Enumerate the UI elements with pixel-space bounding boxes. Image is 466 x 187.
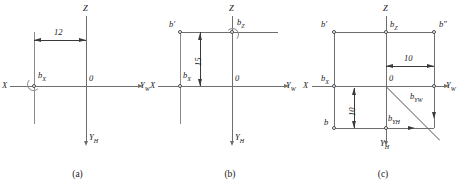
point-label-byh-c-sub: YH (392, 119, 400, 125)
axis-label-z-c: Z (383, 4, 388, 13)
point-bz-c (384, 30, 388, 34)
point-label-bz-b: bZ (237, 18, 245, 29)
axis-label-yw-a-sub: W (145, 86, 150, 92)
panel-c: 10 10 Z X YW YH 0 b′ bZ b″ bX (300, 0, 466, 187)
axis-yh-arrow-a (84, 141, 88, 146)
point-bz-b (230, 30, 234, 34)
point-label-bprime-b: b′ (169, 20, 175, 29)
panel-b: 15 Z X YW YH 0 b′ bZ bX (b) (150, 0, 310, 187)
point-label-bprime-c: b′ (321, 20, 327, 29)
point-bprime-c (332, 30, 336, 34)
edge-arrow-bottom-c (408, 126, 415, 130)
point-bprime-b (178, 30, 182, 34)
dimension-arrow-right-c (427, 64, 434, 68)
dimension-arrow-left-c (386, 64, 393, 68)
point-label-byw-c-sub: YW (414, 97, 422, 103)
axis-label-x-a-text: X (2, 80, 7, 90)
axis-label-yh-a-sub: H (94, 138, 98, 144)
dimension-arrow-up-b (198, 33, 202, 40)
axis-label-z-b: Z (229, 4, 234, 13)
point-byw-c (432, 84, 436, 88)
axis-yh-arrow-b (230, 141, 234, 146)
origin-label-c: 0 (389, 74, 393, 83)
axis-label-yw-b: YW (286, 81, 296, 92)
point-label-bx-c-sub: X (325, 79, 329, 85)
panel-a-stage: 12 Z X YW YH 0 bX (0, 0, 155, 160)
axis-label-yw-c-sub: W (451, 86, 456, 92)
axis-label-yh-a: YH (89, 133, 98, 144)
origin-label-b: 0 (235, 74, 239, 83)
point-label-bx-b-sub: X (187, 76, 191, 82)
projector-left-c (334, 32, 335, 128)
dimension-arrow-down-b (198, 79, 202, 86)
axis-z-c (386, 16, 387, 86)
axis-x-b (158, 86, 232, 87)
axis-label-z-a: Z (83, 4, 88, 13)
axis-label-yh-b-sub: H (240, 138, 244, 144)
dimension-arrow-up-c (352, 88, 356, 95)
dimension-value-horizontal-c: 10 (404, 54, 413, 63)
axis-x-c (312, 86, 386, 87)
axis-yh-c (386, 86, 387, 141)
point-label-bx-c: bX (321, 74, 329, 85)
point-label-bx-b: bX (183, 71, 191, 82)
dimension-value-vertical-c: 10 (348, 108, 357, 117)
axis-label-yw-c: YW (446, 81, 456, 92)
point-label-bx-a-sub: X (42, 76, 46, 82)
axis-label-x-a: X (2, 81, 7, 90)
point-b-c (332, 126, 336, 130)
axis-yh-a (86, 86, 87, 141)
panel-c-stage: 10 10 Z X YW YH 0 b′ bZ b″ bX (300, 0, 466, 160)
origin-label-a: 0 (89, 74, 93, 83)
point-label-byh-c: bYH (388, 114, 400, 125)
axis-yw-a (86, 86, 138, 87)
projector-bx-b (180, 32, 181, 124)
point-label-byw-c: bYW (410, 92, 423, 103)
dimension-arrow-left-a (34, 38, 41, 42)
dimension-arrow-down-c (352, 121, 356, 128)
point-bx-b (178, 84, 182, 88)
axis-label-yh-c-sub: H (385, 144, 389, 150)
axis-label-x-b: X (150, 81, 155, 90)
dimension-value-a: 12 (54, 28, 63, 37)
caption-b: (b) (150, 169, 310, 179)
edge-arrow-right-c (432, 112, 436, 119)
point-bdprime-c (432, 30, 436, 34)
point-byh-c (384, 126, 388, 130)
point-label-b-c: b (324, 118, 328, 127)
axis-label-yh-c: YH (380, 139, 389, 150)
axis-label-x-c: X (303, 81, 308, 90)
caption-a: (a) (0, 169, 155, 179)
axis-label-yw-b-sub: W (291, 86, 296, 92)
axis-yw-b (232, 86, 284, 87)
axis-z-a (86, 16, 87, 86)
point-bx-a (32, 84, 36, 88)
point-label-bz-c-sub: Z (394, 25, 397, 31)
caption-c: (c) (300, 169, 466, 179)
panel-b-stage: 15 Z X YW YH 0 b′ bZ bX (150, 0, 310, 160)
axis-z-b (232, 16, 233, 86)
point-bx-c (332, 84, 336, 88)
dimension-value-b: 15 (194, 58, 203, 67)
dimension-arrow-right-a (79, 38, 86, 42)
point-label-bx-a: bX (38, 71, 46, 82)
point-label-bz-c: bZ (390, 20, 398, 31)
axis-yh-b (232, 86, 233, 141)
axis-x-a (10, 86, 86, 87)
point-label-bdprime-c: b″ (439, 20, 447, 29)
axis-label-yh-b: YH (235, 133, 244, 144)
point-label-bz-b-sub: Z (241, 23, 244, 29)
axis-label-yw-a: YW (140, 81, 150, 92)
panel-a: 12 Z X YW YH 0 bX (a) (0, 0, 155, 187)
